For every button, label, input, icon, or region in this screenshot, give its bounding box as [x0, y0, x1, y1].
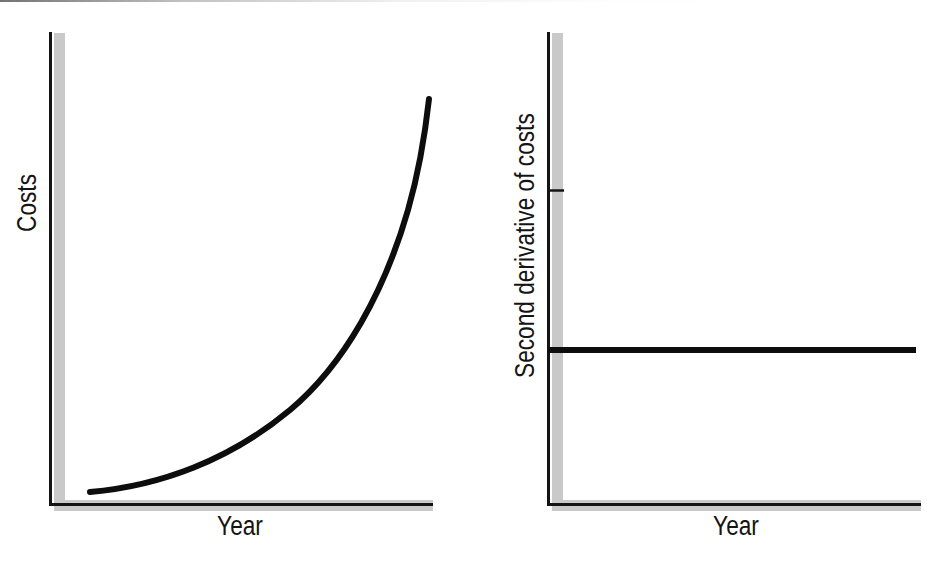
axis-lines	[49, 32, 433, 506]
axis-lines	[547, 32, 921, 506]
figure-canvas: Costs Year	[0, 0, 927, 567]
costs-curve	[90, 99, 429, 492]
second-derivative-x-axis-title: Year	[694, 513, 778, 540]
costs-panel: Costs Year	[0, 0, 464, 567]
axis-shadow	[552, 33, 921, 511]
axis-shadow	[54, 33, 433, 511]
axis-shadow-mask	[563, 33, 565, 500]
axis-shadow-mask	[65, 33, 67, 500]
costs-x-axis-title: Year	[198, 513, 282, 540]
costs-plot-area	[0, 0, 464, 567]
second-derivative-panel: Second derivative of costs Year	[464, 0, 927, 567]
